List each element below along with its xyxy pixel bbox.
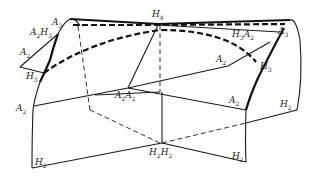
right-inner-profile bbox=[246, 110, 247, 162]
label-h3a2-right: H3A2 bbox=[232, 30, 254, 41]
hidden-bottom bbox=[90, 110, 160, 143]
h4-right-edge bbox=[158, 25, 280, 32]
label-a2-upper-left: A2 bbox=[20, 48, 30, 59]
label-a2-right-mid: A2 bbox=[229, 96, 239, 107]
mid-left-edge bbox=[34, 88, 128, 106]
label-h3-right: H3 bbox=[260, 62, 272, 73]
hidden-right-bottom bbox=[162, 123, 246, 143]
label-h4-top: H4 bbox=[152, 10, 164, 21]
label-a2-lower-left: A2 bbox=[16, 104, 26, 115]
right-arch bbox=[290, 20, 301, 110]
left-profile bbox=[32, 82, 40, 168]
a2-right-diag bbox=[128, 42, 270, 88]
h4-diagonal-left bbox=[128, 25, 158, 88]
right-lower-edge bbox=[246, 110, 297, 123]
label-h3-left: H3 bbox=[26, 72, 38, 83]
label-h2-bottom-right: H2 bbox=[232, 152, 244, 163]
label-h2h2-bottom: H2H2 bbox=[149, 148, 172, 159]
label-a2h3-left: A2H3 bbox=[30, 28, 52, 39]
label-a3-left: A3 bbox=[52, 18, 62, 29]
label-a2a2-center: A2A2 bbox=[115, 91, 136, 102]
bottom-left-edge bbox=[32, 143, 162, 168]
label-a2-center-right: A2 bbox=[216, 55, 226, 66]
label-h2-right: H2 bbox=[280, 100, 292, 111]
label-a3-right: A3 bbox=[278, 27, 288, 38]
label-h2-bottom-left: H2 bbox=[35, 158, 47, 169]
